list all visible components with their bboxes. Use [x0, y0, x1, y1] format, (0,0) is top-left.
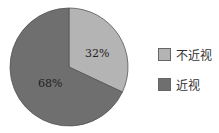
legend-label: 近视 — [176, 76, 200, 93]
legend-swatch-not-myopic — [158, 48, 171, 61]
pie-chart — [0, 0, 219, 133]
legend-item-not-myopic: 不近视 — [158, 46, 212, 63]
legend-label: 不近视 — [176, 46, 212, 63]
slice-label-myopic: 68% — [38, 77, 62, 90]
slice-label-not-myopic: 32% — [85, 47, 109, 60]
legend-swatch-myopic — [158, 78, 171, 91]
legend-item-myopic: 近视 — [158, 76, 200, 93]
